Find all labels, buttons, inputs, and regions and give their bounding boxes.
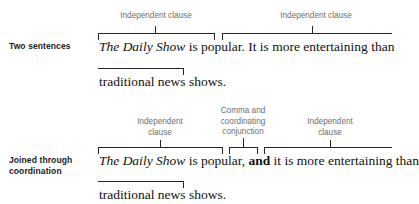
bracket-line-row1-left [98, 33, 215, 34]
coordinating-conjunction-row2: and [245, 153, 270, 168]
bracket-tick-row1-left [155, 26, 156, 33]
bracket-tick-row2-left [160, 140, 161, 147]
bracket-line-row2-continuation [98, 181, 184, 182]
clause-two-row2: it is more entertaining than [270, 153, 419, 168]
annotation-independent-clause-right-row2: Independent clause [288, 117, 372, 138]
clause-one-rest-row1: is popular. [185, 39, 245, 54]
italic-title-row1: The Daily Show [99, 39, 185, 54]
bracket-tick-row2-middle [243, 138, 244, 147]
annotation-comma-coordinating-conjunction-row2: Comma and coordinating conjunction [203, 106, 283, 138]
bracket-line-row1-continuation [98, 68, 184, 69]
sentence-line2-row1: traditional news shows. [99, 73, 226, 91]
sentence-line2-row2: traditional news shows. [99, 186, 226, 204]
annotation-independent-clause-left-row2: Independent clause [118, 117, 202, 138]
annotation-independent-clause-left-row1: Independent clause [97, 11, 215, 22]
bracket-line-row2-middle [229, 147, 258, 148]
sentence-line1-row1: The Daily Show is popular. It is more en… [99, 38, 394, 56]
clause-two-row1: It is more entertaining than [245, 39, 395, 54]
row-label-joined-through-coordination: Joined through coordination [9, 155, 97, 177]
bracket-line-row2-right [264, 147, 392, 148]
sentence-line1-row2: The Daily Show is popular, and it is mor… [99, 152, 419, 170]
italic-title-row2: The Daily Show [99, 153, 185, 168]
bracket-line-row2-left [98, 147, 223, 148]
row-label-two-sentences: Two sentences [9, 41, 94, 52]
clause-one-rest-row2: is popular, [185, 153, 245, 168]
bracket-tick-row2-right [330, 140, 331, 147]
bracket-line-row1-right [222, 33, 392, 34]
bracket-tick-row1-right [312, 26, 313, 33]
annotation-independent-clause-right-row1: Independent clause [236, 11, 396, 22]
